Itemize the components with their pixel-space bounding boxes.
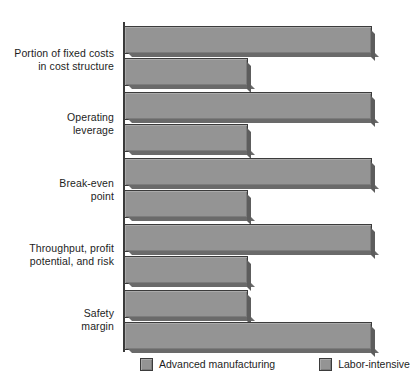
category-label-throughput-profit-risk: Throughput, profit potential, and risk [0,242,114,268]
legend-swatch-icon-advanced-manufacturing [140,358,153,371]
category-label-fixed-costs: Portion of fixed costs in cost structure [0,47,114,73]
legend-entry-labor-intensive: Labor-intensive [319,358,410,371]
bar-labor-intensive-safety-margin [124,322,372,350]
plot-area [123,22,417,352]
chart-legend: Advanced manufacturing Labor-intensive [140,358,410,371]
bar-advanced-manufacturing-throughput [124,224,372,252]
legend-label-advanced-manufacturing: Advanced manufacturing [159,358,275,371]
category-label-safety-margin: Safety margin [0,307,114,333]
horizontal-bar-chart: Portion of fixed costs in cost structure… [0,0,417,392]
legend-entry-advanced-manufacturing: Advanced manufacturing [140,358,275,371]
category-label-break-even-point: Break-even point [0,177,114,203]
bar-labor-intensive-break-even-point [124,190,248,218]
bar-advanced-manufacturing-fixed-costs [124,26,372,54]
bar-advanced-manufacturing-safety-margin [124,290,248,318]
legend-swatch-icon-labor-intensive [319,358,332,371]
bar-advanced-manufacturing-break-even-point [124,158,372,186]
bar-labor-intensive-fixed-costs [124,58,248,86]
bar-advanced-manufacturing-operating-leverage [124,92,372,120]
legend-label-labor-intensive: Labor-intensive [338,358,410,371]
bar-labor-intensive-throughput [124,256,248,284]
bar-labor-intensive-operating-leverage [124,124,248,152]
category-label-operating-leverage: Operating leverage [0,111,114,137]
